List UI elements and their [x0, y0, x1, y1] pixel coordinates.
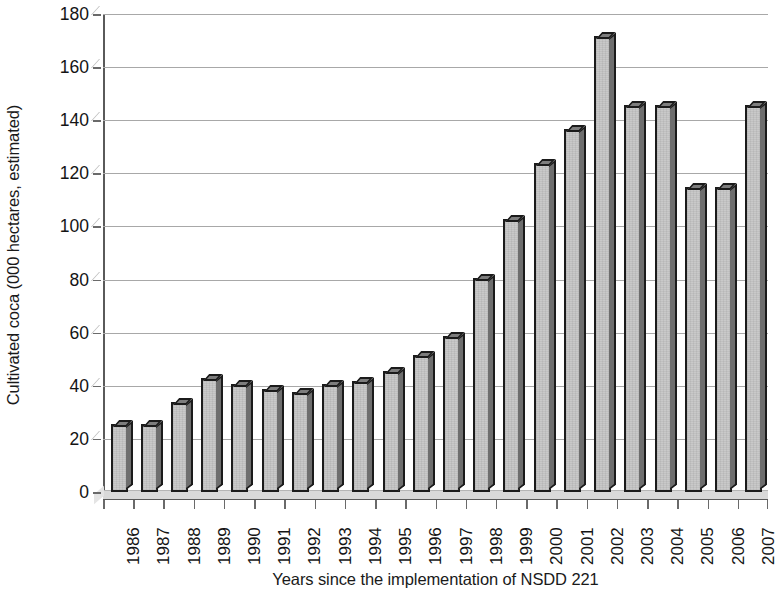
y-tick-mark [93, 14, 101, 16]
y-tick-label: 160 [43, 58, 89, 76]
bar-slot [139, 14, 169, 500]
x-tick-mark [526, 500, 528, 509]
bar[interactable] [443, 336, 460, 492]
bar-slot [229, 14, 259, 500]
bar-slot [471, 14, 501, 500]
y-axis-title: Cultivated coca (000 hectares, estimated… [0, 5, 26, 505]
bar[interactable] [383, 371, 400, 493]
x-tick-mark [708, 500, 710, 509]
bar-slot [683, 14, 713, 500]
bar[interactable] [534, 163, 551, 492]
x-tick-label: 1987 [155, 509, 173, 565]
bar[interactable] [473, 278, 490, 492]
bar[interactable] [201, 378, 218, 492]
x-tick-label: 2005 [699, 509, 717, 565]
x-tick-label: 1994 [367, 509, 385, 565]
bar[interactable] [141, 424, 158, 492]
x-tick-mark [738, 500, 740, 509]
bar-side-face [246, 380, 253, 490]
bar-slot [743, 14, 773, 500]
bar-slot [411, 14, 441, 500]
bar[interactable] [624, 105, 641, 492]
x-axis-title: Years since the implementation of NSDD 2… [103, 570, 768, 589]
bar-side-face [337, 380, 344, 490]
x-tick-label: 1990 [246, 509, 264, 565]
x-tick-mark [496, 500, 498, 509]
x-tick-label: 1989 [216, 509, 234, 565]
bar[interactable] [655, 105, 672, 492]
x-tick-label: 2007 [760, 509, 778, 565]
bar-side-face [367, 378, 374, 490]
bar-side-face [277, 386, 284, 490]
x-tick-label: 1997 [458, 509, 476, 565]
bar-side-face [670, 101, 677, 490]
x-tick-label: 2002 [609, 509, 627, 565]
x-tick-label: 1998 [488, 509, 506, 565]
bar-slot [169, 14, 199, 500]
bar[interactable] [111, 424, 128, 492]
x-tick-mark [436, 500, 438, 509]
x-tick-mark [587, 500, 589, 509]
y-tick-mark [93, 173, 101, 175]
bar[interactable] [322, 384, 339, 492]
bar-side-face [639, 101, 646, 490]
x-tick-label: 2004 [669, 509, 687, 565]
bar-slot [350, 14, 380, 500]
y-tick-label: 80 [43, 271, 89, 289]
bar-slot [260, 14, 290, 500]
bar-side-face [730, 184, 737, 490]
x-tick-label: 1986 [125, 509, 143, 565]
bar[interactable] [594, 36, 611, 492]
bar-slot [501, 14, 531, 500]
bar-side-face [549, 160, 556, 490]
bar-slot [199, 14, 229, 500]
x-tick-label: 1995 [397, 509, 415, 565]
bar-side-face [488, 274, 495, 490]
bar-slot [592, 14, 622, 500]
y-tick-label: 40 [43, 377, 89, 395]
bar[interactable] [231, 384, 248, 492]
bar-side-face [579, 125, 586, 490]
x-tick-label: 1992 [306, 509, 324, 565]
bar-side-face [458, 333, 465, 490]
x-tick-mark [647, 500, 649, 509]
bar-slot [290, 14, 320, 500]
x-tick-mark [677, 500, 679, 509]
bar[interactable] [503, 219, 520, 492]
x-tick-mark [345, 500, 347, 509]
x-tick-mark [617, 500, 619, 509]
y-tick-mark [93, 67, 101, 69]
bar-slot [109, 14, 139, 500]
y-tick-mark [93, 333, 101, 335]
x-tick-label: 2001 [579, 509, 597, 565]
bar[interactable] [564, 129, 581, 492]
y-tick-label: 60 [43, 324, 89, 342]
bar[interactable] [262, 389, 279, 492]
plot-area: 020406080100120140160180 [103, 14, 768, 500]
bar-slot [622, 14, 652, 500]
bar[interactable] [292, 392, 309, 492]
bar[interactable] [413, 355, 430, 492]
y-tick-label: 20 [43, 430, 89, 448]
y-tick-mark [93, 120, 101, 122]
bar-side-face [126, 420, 133, 490]
x-tick-mark [315, 500, 317, 509]
x-tick-mark [466, 500, 468, 509]
bar[interactable] [352, 381, 369, 492]
bar-slot [653, 14, 683, 500]
x-axis-tick-labels: 1986198719881989199019911992199319941995… [103, 509, 768, 565]
bar-side-face [186, 399, 193, 490]
x-tick-label: 1993 [337, 509, 355, 565]
bar[interactable] [745, 105, 762, 492]
bar[interactable] [715, 187, 732, 492]
x-tick-label: 2003 [639, 509, 657, 565]
bar-side-face [398, 367, 405, 490]
bar[interactable] [171, 402, 188, 492]
y-tick-mark [93, 439, 101, 441]
bar-side-face [518, 216, 525, 490]
x-tick-label: 2006 [730, 509, 748, 565]
y-tick-label: 140 [43, 111, 89, 129]
bar[interactable] [685, 187, 702, 492]
bar-slot [381, 14, 411, 500]
x-tick-label: 1991 [276, 509, 294, 565]
